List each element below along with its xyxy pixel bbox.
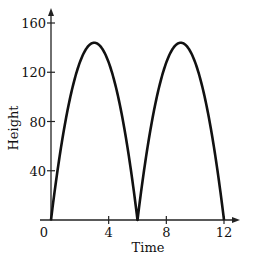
y-axis-title: Height (6, 105, 21, 151)
y-tick-label: 120 (21, 65, 46, 80)
x-tick-label: 0 (40, 225, 48, 240)
x-tick-label: 8 (162, 225, 170, 240)
x-axis-arrow-icon (232, 217, 240, 223)
y-tick-label: 80 (29, 115, 46, 130)
x-tick-label: 4 (105, 225, 113, 240)
y-ticks: 4080120160 (21, 16, 55, 179)
chart: 4080120160 04812 Time Height (0, 0, 256, 267)
data-series-height (51, 43, 224, 220)
y-tick-label: 40 (29, 164, 46, 179)
x-axis (40, 217, 240, 223)
x-tick-label: 12 (216, 225, 233, 240)
x-axis-title: Time (132, 240, 165, 255)
y-axis-arrow-icon (48, 8, 54, 16)
y-tick-label: 160 (21, 16, 46, 31)
y-axis (48, 8, 54, 221)
